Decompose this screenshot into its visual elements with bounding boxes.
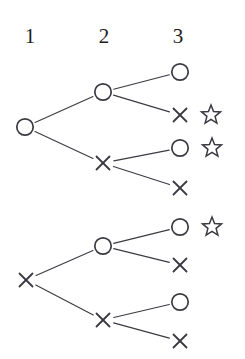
star-marker-icon xyxy=(202,138,221,156)
circle-icon xyxy=(172,64,188,80)
circle-icon xyxy=(172,219,188,235)
tree-edge xyxy=(114,230,170,244)
tree-edge xyxy=(114,75,170,89)
game-tree-diagram: 123 xyxy=(0,0,245,359)
circle-node[interactable] xyxy=(172,64,188,80)
circle-icon xyxy=(95,84,111,100)
tree-edge xyxy=(114,323,170,338)
cross-node[interactable] xyxy=(174,109,187,122)
edges-layer xyxy=(35,75,170,338)
column-header-1: 1 xyxy=(18,26,42,47)
tree-edge xyxy=(114,95,170,112)
circle-node[interactable] xyxy=(95,84,111,100)
tree-edge xyxy=(114,305,170,318)
column-header-3: 3 xyxy=(166,26,190,47)
tree-edge xyxy=(35,132,93,159)
circle-icon xyxy=(172,140,188,156)
cross-node[interactable] xyxy=(97,157,110,170)
circle-icon xyxy=(95,238,111,254)
tree-edge xyxy=(36,250,93,275)
circle-icon xyxy=(17,119,33,135)
cross-node[interactable] xyxy=(20,274,33,287)
tree-edge xyxy=(36,285,93,315)
nodes-layer xyxy=(17,64,188,348)
circle-node[interactable] xyxy=(172,219,188,235)
cross-node[interactable] xyxy=(174,182,187,195)
cross-node[interactable] xyxy=(174,259,187,272)
star-marker-icon xyxy=(202,217,221,235)
cross-node[interactable] xyxy=(97,314,110,327)
circle-node[interactable] xyxy=(95,238,111,254)
circle-node[interactable] xyxy=(172,294,188,310)
tree-edge xyxy=(35,97,93,123)
tree-canvas xyxy=(0,0,245,359)
tree-edge xyxy=(113,166,169,184)
stars-layer xyxy=(201,105,221,235)
circle-node[interactable] xyxy=(17,119,33,135)
circle-icon xyxy=(172,294,188,310)
circle-node[interactable] xyxy=(172,140,188,156)
column-header-2: 2 xyxy=(92,26,116,47)
cross-node[interactable] xyxy=(174,335,187,348)
tree-edge xyxy=(114,150,169,161)
star-marker-icon xyxy=(201,105,220,123)
tree-edge xyxy=(114,249,170,263)
